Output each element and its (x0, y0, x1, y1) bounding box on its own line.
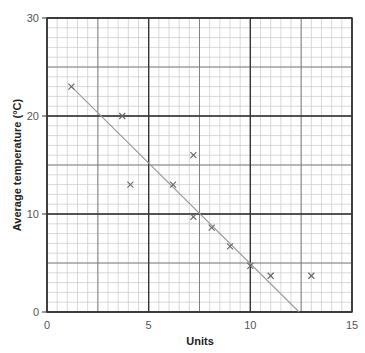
scatter-chart: 051015 0102030 Units Average temperature… (0, 0, 365, 353)
fit-line (71, 87, 299, 312)
line-of-best-fit (71, 87, 299, 312)
x-tick-label: 5 (146, 319, 152, 331)
y-tick-label: 0 (33, 306, 39, 318)
data-points (68, 84, 314, 279)
mid-grid (47, 18, 352, 312)
x-tick-label: 0 (44, 319, 50, 331)
x-tick-label: 10 (244, 319, 256, 331)
x-axis-ticks: 051015 (44, 319, 358, 331)
data-point-x-marker (190, 214, 196, 220)
y-axis-label: Average temperature (°C) (11, 98, 23, 231)
y-tick-label: 30 (27, 12, 39, 24)
y-axis-ticks: 0102030 (27, 12, 47, 318)
x-tick-label: 15 (346, 319, 358, 331)
y-tick-label: 10 (27, 208, 39, 220)
x-axis-label: Units (186, 335, 214, 347)
y-tick-label: 20 (27, 110, 39, 122)
